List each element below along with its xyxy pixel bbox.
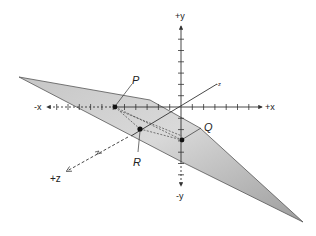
label-neg-x: -x bbox=[34, 102, 42, 112]
label-q: Q bbox=[204, 121, 213, 133]
label-neg-y: -y bbox=[176, 191, 184, 201]
label-neg-z: -z bbox=[216, 81, 221, 87]
label-p: P bbox=[132, 74, 140, 86]
plane bbox=[19, 77, 303, 222]
point-r bbox=[137, 126, 142, 131]
coordinate-diagram: +y -y +x -x -z +z P Q R bbox=[0, 0, 316, 236]
point-p bbox=[113, 105, 118, 110]
point-q bbox=[180, 138, 185, 143]
label-r: R bbox=[133, 156, 141, 168]
label-pos-z: +z bbox=[50, 173, 61, 184]
label-pos-x: +x bbox=[265, 102, 275, 112]
label-pos-y: +y bbox=[175, 11, 185, 21]
